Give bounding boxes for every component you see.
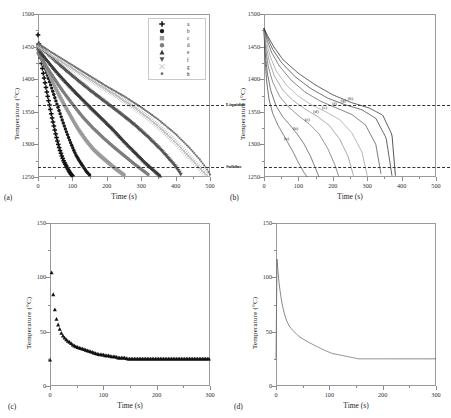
y-tick-mark (34, 112, 38, 113)
y-tick-label: 1250 (2, 173, 34, 180)
legend-label-c: c (187, 35, 189, 41)
x-tick-label: 0 (23, 182, 53, 189)
y-minor-tick (262, 161, 264, 162)
y-tick-label: 1450 (2, 43, 34, 50)
legend-label-g: g (187, 64, 190, 70)
x-tick-mark (383, 386, 384, 390)
x-tick-mark (264, 177, 265, 181)
curve-label-h: (h) (348, 96, 353, 101)
y-tick-label: 1450 (228, 43, 260, 50)
y-minor-tick (262, 128, 264, 129)
x-tick-label: 300 (421, 391, 451, 398)
legend-label-f: f (187, 57, 189, 63)
x-minor-tick (183, 386, 184, 388)
x-tick-label: 200 (142, 391, 172, 398)
x-tick-mark (333, 177, 334, 181)
y-minor-tick (36, 30, 38, 31)
y-minor-tick (36, 96, 38, 97)
y-tick-label: 100 (14, 273, 46, 280)
y-tick-label: 1250 (228, 173, 260, 180)
legend-markers-a (148, 18, 206, 80)
y-tick-mark (34, 14, 38, 15)
y-tick-label: 1350 (2, 108, 34, 115)
y-minor-tick (48, 305, 50, 306)
x-tick-mark (38, 177, 39, 181)
x-axis-label-c: Time (s) (50, 401, 210, 410)
y-tick-mark (46, 332, 50, 333)
y-tick-label: 150 (14, 219, 46, 226)
x-tick-mark (329, 386, 330, 390)
legend-label-d: d (187, 42, 190, 48)
x-tick-label: 0 (35, 391, 65, 398)
x-tick-mark (72, 177, 73, 181)
panel-label-a: (a) (4, 193, 12, 202)
panel-label-c: (c) (8, 402, 16, 411)
panel-c: Temperature (°C) Time (s) (c) 0501001500… (0, 209, 225, 418)
y-axis-label-c: Temperature (°C) (25, 297, 33, 349)
x-tick-label: 200 (368, 391, 398, 398)
panel-d: Temperature (°C) Time (s) (d) 0501001500… (226, 209, 451, 418)
x-tick-label: 200 (92, 182, 122, 189)
x-tick-label: 300 (352, 182, 382, 189)
x-tick-label: 100 (283, 182, 313, 189)
x-minor-tick (350, 177, 351, 179)
y-tick-mark (34, 47, 38, 48)
x-minor-tick (384, 177, 385, 179)
x-tick-mark (50, 386, 51, 390)
y-minor-tick (36, 161, 38, 162)
curve-label-b: (b) (293, 126, 298, 131)
y-tick-mark (260, 47, 264, 48)
panel-a: Temperature (°C) Time (s) (a) 1250130013… (0, 0, 225, 209)
curve-label-c: (c) (305, 117, 310, 122)
x-minor-tick (409, 386, 410, 388)
y-tick-label: 100 (240, 273, 272, 280)
y-tick-label: 0 (14, 382, 46, 389)
y-tick-mark (272, 277, 276, 278)
y-tick-mark (46, 277, 50, 278)
legend-label-e: e (187, 49, 189, 55)
x-axis-label-a: Time (s) (38, 192, 210, 201)
x-tick-label: 500 (421, 182, 451, 189)
x-tick-label: 300 (126, 182, 156, 189)
y-minor-tick (36, 128, 38, 129)
x-minor-tick (316, 177, 317, 179)
panel-b: Temperature (°C) Time (s) (b) 1250130013… (226, 0, 451, 209)
y-tick-label: 50 (14, 328, 46, 335)
y-axis-label-d: Temperature (°C) (251, 297, 259, 349)
x-tick-mark (157, 386, 158, 390)
reference-line-liquidus (38, 105, 224, 106)
x-minor-tick (303, 386, 304, 388)
x-tick-label: 100 (314, 391, 344, 398)
y-minor-tick (48, 359, 50, 360)
figure-cooling-curves: Temperature (°C) Time (s) (a) 1250130013… (0, 0, 451, 418)
x-minor-tick (130, 386, 131, 388)
y-tick-label: 1500 (2, 10, 34, 17)
y-tick-mark (260, 112, 264, 113)
y-tick-label: 1500 (228, 10, 260, 17)
y-tick-label: 150 (240, 219, 272, 226)
x-tick-mark (107, 177, 108, 181)
x-minor-tick (356, 386, 357, 388)
x-minor-tick (55, 177, 56, 179)
x-minor-tick (158, 177, 159, 179)
x-minor-tick (90, 177, 91, 179)
y-minor-tick (274, 359, 276, 360)
x-minor-tick (124, 177, 125, 179)
reference-line-liquidus (264, 105, 450, 106)
x-tick-label: 400 (387, 182, 417, 189)
x-tick-label: 300 (195, 391, 225, 398)
y-minor-tick (274, 250, 276, 251)
x-tick-mark (367, 177, 368, 181)
legend-label-h: h (187, 71, 190, 77)
x-tick-label: 200 (318, 182, 348, 189)
legend-label-a: a (187, 21, 189, 27)
y-tick-label: 1400 (228, 75, 260, 82)
x-tick-label: 100 (57, 182, 87, 189)
y-tick-mark (260, 79, 264, 80)
legend-label-b: b (187, 28, 190, 34)
x-tick-label: 400 (161, 182, 191, 189)
y-tick-label: 1350 (228, 108, 260, 115)
x-tick-mark (298, 177, 299, 181)
panel-label-d: (d) (234, 402, 243, 411)
y-tick-mark (260, 144, 264, 145)
